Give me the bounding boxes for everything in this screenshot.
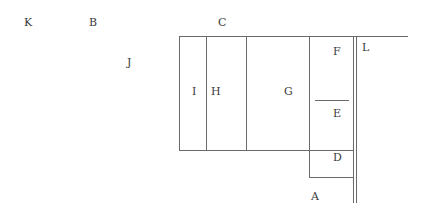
label-d: D (333, 152, 342, 163)
top-line (179, 36, 408, 37)
label-j: J (127, 57, 131, 68)
label-a: A (311, 191, 319, 202)
double-line-right (356, 36, 357, 203)
divider-f-e (315, 100, 349, 101)
label-k: K (24, 17, 32, 28)
divider-h-g (246, 36, 247, 151)
label-e: E (333, 108, 341, 119)
bottom-d-line (309, 177, 353, 178)
label-h: H (211, 86, 221, 97)
divider-i-h (206, 36, 207, 151)
divider-g-f (309, 36, 310, 178)
label-l: L (362, 42, 369, 53)
label-f: F (333, 46, 341, 57)
label-g: G (284, 86, 293, 97)
label-c: C (218, 17, 226, 28)
label-i: I (192, 86, 196, 97)
left-line (179, 36, 180, 151)
double-line-left (353, 36, 354, 203)
label-b: B (89, 17, 97, 28)
